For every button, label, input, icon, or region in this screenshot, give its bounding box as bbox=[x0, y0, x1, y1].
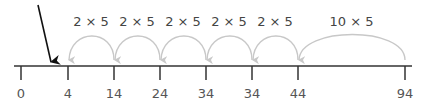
tick-label: 44 bbox=[290, 86, 307, 101]
tick-group: 04142434344494 bbox=[17, 66, 413, 101]
tick-label: 94 bbox=[397, 86, 414, 101]
jump-label: 2 × 5 bbox=[73, 14, 109, 29]
jump-label: 2 × 5 bbox=[257, 14, 293, 29]
jump-label: 2 × 5 bbox=[119, 14, 155, 29]
jump-arc bbox=[69, 36, 114, 60]
tick-label: 14 bbox=[106, 86, 123, 101]
jump-arc bbox=[253, 36, 298, 60]
jump-arc bbox=[161, 36, 206, 60]
jump-label: 2 × 5 bbox=[211, 14, 247, 29]
tick-label: 34 bbox=[244, 86, 261, 101]
pointer-arrow-icon bbox=[38, 5, 51, 62]
tick-label: 4 bbox=[64, 86, 72, 101]
jump-arc bbox=[115, 36, 160, 60]
jump-arc bbox=[207, 36, 252, 60]
number-line-diagram: 04142434344494 2 × 52 × 52 × 52 × 52 × 5… bbox=[0, 0, 427, 107]
jump-label: 2 × 5 bbox=[165, 14, 201, 29]
jump-label: 10 × 5 bbox=[330, 14, 374, 29]
tick-label: 34 bbox=[198, 86, 215, 101]
tick-label: 24 bbox=[152, 86, 169, 101]
jump-arc bbox=[299, 35, 405, 61]
tick-label: 0 bbox=[17, 86, 25, 101]
jump-arc-group: 2 × 52 × 52 × 52 × 52 × 510 × 5 bbox=[69, 14, 405, 60]
